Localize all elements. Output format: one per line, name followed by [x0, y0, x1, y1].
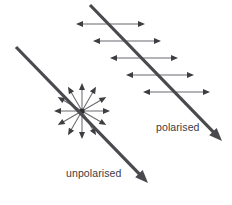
unpolarised-label: unpolarised — [66, 167, 121, 179]
light-rays — [16, 5, 222, 183]
polarised-label: polarised — [156, 121, 200, 133]
polarisation-diagram: polarised unpolarised — [0, 0, 232, 205]
unpolarised-ray — [16, 47, 148, 183]
unpolarised-oscillation-burst — [54, 83, 110, 139]
